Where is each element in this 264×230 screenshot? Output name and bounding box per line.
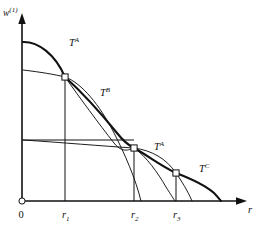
axis-labels-group: w(1) r 0 bbox=[3, 6, 253, 220]
tick-label-r1: r1 bbox=[62, 209, 70, 223]
switch-point-marker-r3 bbox=[173, 170, 179, 176]
curve-label-TB: TB bbox=[100, 86, 111, 98]
technology-frontier-figure: w(1) r 0 r1 r2 r3 TA TB bbox=[0, 0, 264, 230]
axes-group bbox=[18, 13, 247, 205]
tick-labels-group: r1 r2 r3 bbox=[62, 209, 181, 223]
tick-label-r2-sub: 2 bbox=[135, 215, 139, 223]
x-axis-arrow-icon bbox=[236, 197, 247, 204]
tick-label-r1-sub: 1 bbox=[66, 215, 70, 223]
curve-label-TA-2: TA bbox=[154, 140, 165, 152]
thick-envelope-group bbox=[23, 42, 221, 201]
curve-label-TC-sup: C bbox=[205, 162, 210, 170]
origin-label: 0 bbox=[18, 209, 23, 220]
tick-label-r2: r2 bbox=[131, 209, 139, 223]
curve-TC-thin bbox=[23, 140, 192, 201]
drop-lines-group bbox=[65, 77, 176, 201]
y-axis-arrow-icon bbox=[18, 13, 25, 24]
intersection-markers-group bbox=[19, 74, 179, 204]
curve-TB-thin bbox=[23, 70, 141, 201]
curve-label-TC: TC bbox=[199, 162, 210, 174]
switch-point-marker-r2 bbox=[131, 145, 137, 151]
curve-label-TB-sup: B bbox=[106, 86, 111, 94]
switch-point-marker-r1 bbox=[62, 74, 68, 80]
curve-label-TA-2-sup: A bbox=[159, 140, 165, 148]
chart-svg: w(1) r 0 r1 r2 r3 TA TB bbox=[0, 0, 264, 230]
origin-marker bbox=[19, 198, 25, 204]
curve-TC-thick bbox=[176, 173, 221, 201]
y-axis-label: w(1) bbox=[3, 6, 18, 18]
y-axis-label-superscript: (1) bbox=[9, 6, 18, 14]
x-axis-label: r bbox=[248, 204, 253, 215]
curve-TA-thick-first bbox=[23, 42, 65, 77]
curve-label-TA-1-sup: A bbox=[74, 36, 80, 44]
curve-TA-thin-continuation bbox=[65, 77, 175, 201]
tick-label-r3-sub: 3 bbox=[176, 215, 181, 223]
tick-label-r3: r3 bbox=[173, 209, 181, 223]
curve-labels-group: TA TB TA TC bbox=[69, 36, 210, 174]
curve-label-TA-1: TA bbox=[69, 36, 80, 48]
